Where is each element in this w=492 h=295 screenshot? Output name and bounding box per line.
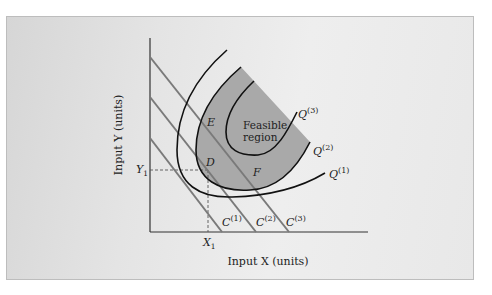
x1-marker: X1 xyxy=(202,236,216,251)
isoquant-q1-label: Q(1) xyxy=(329,166,349,181)
x1-sub: 1 xyxy=(211,242,216,251)
region-label-line1: Feasible xyxy=(243,119,287,131)
isocost-c3-label: C(3) xyxy=(286,214,306,229)
q2-base: Q xyxy=(313,145,322,158)
q2-sup: (2) xyxy=(322,143,333,152)
point-e-label: E xyxy=(206,116,215,129)
q3-sup: (3) xyxy=(307,106,318,115)
isoquant-q3-label: Q(3) xyxy=(298,106,318,121)
q1-base: Q xyxy=(329,168,338,181)
x-axis-title: Input X (units) xyxy=(227,255,308,268)
y1-marker: Y1 xyxy=(136,163,148,178)
c2-sup: (2) xyxy=(264,214,275,223)
isoquant-q2-label: Q(2) xyxy=(313,143,333,158)
region-label-line2: region xyxy=(243,131,278,143)
y-axis-title: Input Y (units) xyxy=(112,95,125,176)
y1-sub: 1 xyxy=(143,169,148,178)
isocost-c2-label: C(2) xyxy=(256,214,276,229)
point-f-label: F xyxy=(252,166,261,179)
c1-sup: (1) xyxy=(230,214,241,223)
q3-base: Q xyxy=(298,108,307,121)
isocost-c1-label: C(1) xyxy=(222,214,242,229)
q1-sup: (1) xyxy=(338,166,349,175)
point-d-label: D xyxy=(205,156,215,169)
isoquant-diagram: Feasible region E D F Q(3) Q(2) Q(1) C(1… xyxy=(0,0,492,295)
c3-sup: (3) xyxy=(294,214,305,223)
